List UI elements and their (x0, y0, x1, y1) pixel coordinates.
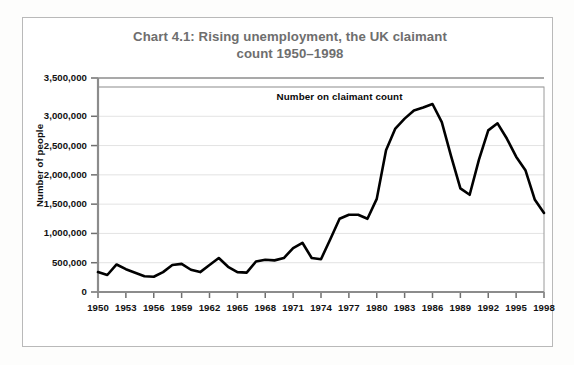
gridlines (98, 87, 544, 263)
y-tick-label: 500,000 (0, 257, 87, 268)
y-tick-label: 0 (0, 286, 87, 297)
x-tick-label: 1998 (522, 302, 566, 313)
y-tick-label: 1,500,000 (0, 198, 87, 209)
y-tick-label: 1,000,000 (0, 227, 87, 238)
y-tick-label: 2,000,000 (0, 169, 87, 180)
y-tick-label: 2,500,000 (0, 140, 87, 151)
data-series (98, 104, 544, 277)
plot-frame (98, 87, 544, 292)
series-annotation-label: Number on claimant count (277, 91, 403, 102)
chart-page: Chart 4.1: Rising unemployment, the UK c… (0, 0, 574, 365)
y-tick-label: 3,000,000 (0, 110, 87, 121)
series-line-0 (98, 104, 544, 277)
y-tick-label: 3,500,000 (0, 72, 87, 83)
